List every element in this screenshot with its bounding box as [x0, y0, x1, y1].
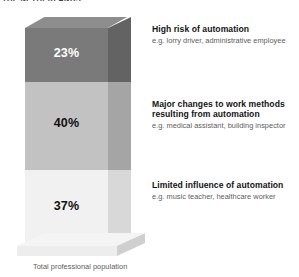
legend-examples-major-changes: e.g. medical assistant, building inspect…	[152, 121, 298, 130]
legend-title-limited-influence: Limited influence of automation	[152, 180, 298, 190]
legend-examples-high-risk: e.g. lorry driver, administrative employ…	[152, 36, 298, 45]
legend-item-major-changes: Major changes to work methods resulting …	[152, 99, 298, 130]
bar-value-high-risk: 23%	[25, 46, 108, 60]
legend-examples-limited-influence: e.g. music teacher, healthcare worker	[152, 192, 298, 201]
legend-title-high-risk: High risk of automation	[152, 24, 298, 34]
bar-segment-major-changes: 40%	[25, 82, 108, 170]
bar-segment-high-risk: 23%	[25, 28, 108, 82]
chart-caption: Total professional population	[33, 262, 127, 271]
bar-base-plinth-front	[17, 246, 117, 256]
bar-segment-high-risk-side	[108, 17, 131, 82]
bar-value-major-changes: 40%	[25, 116, 108, 130]
bar-value-limited-influence: 37%	[25, 199, 108, 213]
legend-item-limited-influence: Limited influence of automation e.g. mus…	[152, 180, 298, 201]
legend-title-major-changes: Major changes to work methods resulting …	[152, 99, 298, 119]
bar-base-plinth	[17, 246, 117, 256]
legend-item-high-risk: High risk of automation e.g. lorry drive…	[152, 24, 298, 45]
bar-segment-major-changes-side	[108, 82, 131, 170]
